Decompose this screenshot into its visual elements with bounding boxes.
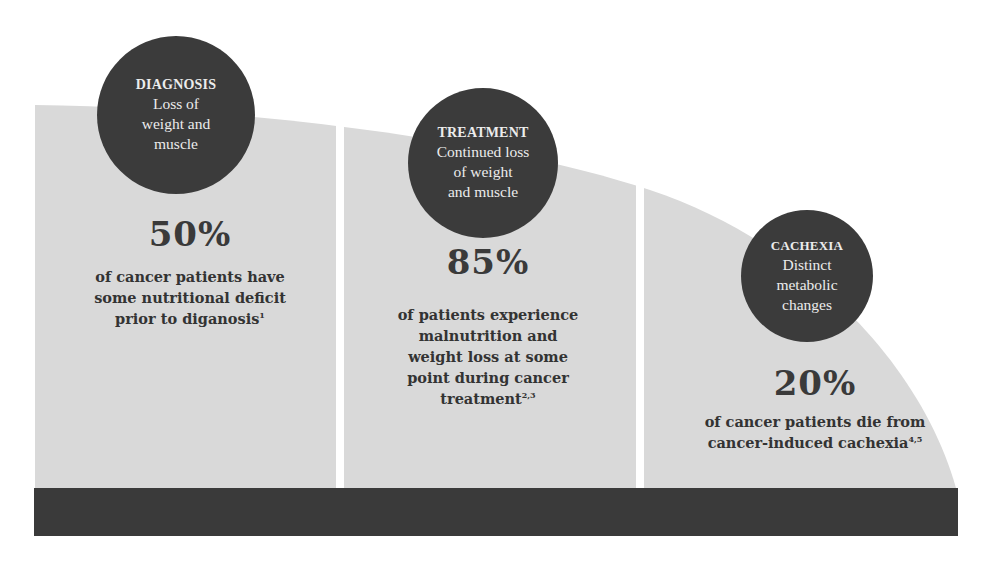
footnote-marker: 4,5 bbox=[908, 434, 922, 444]
stat-percentage: 20% bbox=[670, 363, 960, 403]
bottom-bar bbox=[34, 488, 958, 536]
stat-percentage: 50% bbox=[60, 214, 320, 254]
divider-1 bbox=[336, 90, 344, 490]
stat-description-line: treatment2,3 bbox=[363, 388, 613, 409]
stage-circle-cachexia: CACHEXIA Distinct metabolic changes bbox=[741, 210, 873, 342]
stage-description-line: Distinct bbox=[782, 255, 831, 275]
stat-block-diagnosis: 50% of cancer patients have some nutriti… bbox=[60, 214, 320, 329]
stat-description: of patients experience malnutrition and … bbox=[363, 304, 613, 409]
stage-description-line: Loss of bbox=[153, 94, 199, 114]
stat-description-text: prior to diganosis bbox=[115, 310, 259, 327]
stat-description: of cancer patients have some nutritional… bbox=[60, 266, 320, 329]
stat-description-line: cancer-induced cachexia4,5 bbox=[670, 432, 960, 453]
stage-title: DIAGNOSIS bbox=[136, 76, 216, 94]
stat-block-treatment: 85% of patients experience malnutrition … bbox=[363, 242, 613, 409]
stat-description-line: of cancer patients have bbox=[60, 266, 320, 287]
stage-description-line: metabolic bbox=[776, 275, 837, 295]
stat-description: of cancer patients die from cancer-induc… bbox=[670, 411, 960, 453]
cancer-progression-diagram: DIAGNOSIS Loss of weight and muscle 50% … bbox=[0, 0, 989, 570]
divider-2 bbox=[636, 90, 644, 490]
stat-description-line: malnutrition and bbox=[363, 325, 613, 346]
stat-percentage: 85% bbox=[363, 242, 613, 282]
stat-description-line: weight loss at some bbox=[363, 346, 613, 367]
stat-description-line: of patients experience bbox=[363, 304, 613, 325]
stat-description-line: point during cancer bbox=[363, 367, 613, 388]
stage-description-line: of weight bbox=[454, 162, 513, 182]
stage-description-line: and muscle bbox=[448, 182, 518, 202]
stat-description-text: treatment bbox=[440, 390, 521, 407]
stat-description-text: cancer-induced cachexia bbox=[708, 434, 909, 451]
stage-circle-diagnosis: DIAGNOSIS Loss of weight and muscle bbox=[97, 36, 255, 194]
stage-circle-treatment: TREATMENT Continued loss of weight and m… bbox=[408, 88, 558, 238]
stage-description-line: Continued loss bbox=[437, 142, 530, 162]
stat-block-cachexia: 20% of cancer patients die from cancer-i… bbox=[670, 363, 960, 453]
stage-description-line: changes bbox=[782, 295, 832, 315]
stage-title: CACHEXIA bbox=[771, 237, 843, 255]
footnote-marker: 1 bbox=[259, 310, 265, 320]
stage-description-line: weight and bbox=[142, 114, 210, 134]
stage-description-line: muscle bbox=[154, 134, 198, 154]
stat-description-line: of cancer patients die from bbox=[670, 411, 960, 432]
stat-description-line: prior to diganosis1 bbox=[60, 308, 320, 329]
footnote-marker: 2,3 bbox=[522, 390, 536, 400]
stat-description-line: some nutritional deficit bbox=[60, 287, 320, 308]
stage-title: TREATMENT bbox=[438, 124, 529, 142]
